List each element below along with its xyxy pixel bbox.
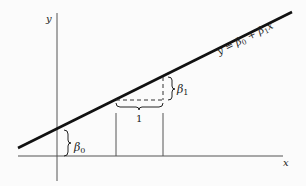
run-label: 1	[136, 113, 142, 124]
run-brace	[116, 103, 163, 110]
intercept-brace	[64, 130, 71, 156]
diagram-svg: y x y = β0 + β1x β0 1 β1	[0, 0, 306, 186]
regression-diagram: y x y = β0 + β1x β0 1 β1	[0, 0, 306, 186]
y-axis-label: y	[45, 13, 52, 24]
line-equation: y = β0 + β1x	[214, 20, 276, 60]
svg-text:y = β0 + β1x: y = β0 + β1x	[214, 20, 276, 60]
slope-label: β1	[176, 83, 188, 97]
x-axis-label: x	[283, 157, 289, 168]
intercept-label: β0	[73, 141, 85, 155]
slope-brace	[168, 77, 175, 100]
